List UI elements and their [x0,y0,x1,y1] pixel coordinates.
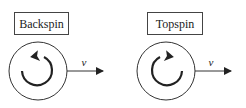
topspin-panel: Topspin v [137,13,231,101]
spin-diagram: Backspin v Topspin v [0,0,246,108]
clockwise-spin-arrow-icon [152,57,182,85]
topspin-ball [137,42,195,100]
backspin-ball [9,42,67,100]
backspin-label-box: Backspin [15,13,69,35]
topspin-arrowhead-icon [164,50,175,63]
backspin-panel: Backspin v [9,13,103,101]
backspin-label: Backspin [19,17,64,31]
backspin-velocity-label: v [82,56,87,68]
backspin-arrowhead-icon [29,50,40,63]
topspin-label-box: Topspin [148,13,203,35]
topspin-label: Topspin [156,17,195,31]
counterclockwise-spin-arrow-icon [22,57,52,85]
topspin-velocity-label: v [209,56,214,68]
